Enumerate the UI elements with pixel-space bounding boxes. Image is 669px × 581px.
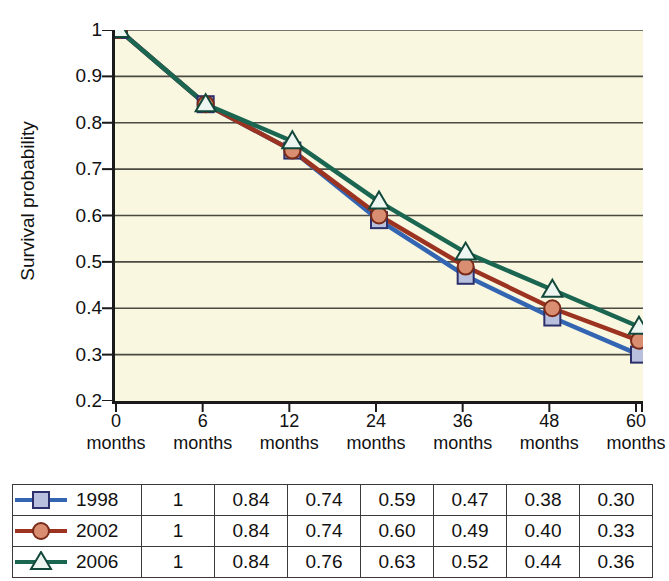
legend-marker-circle-icon (13, 520, 69, 542)
line-chart: Survival probability 10.90.80.70.60.50.4… (0, 0, 669, 470)
data-point-2006-36 months (456, 243, 476, 260)
legend-marker-triangle-icon (13, 551, 69, 573)
x-tick-label: 60months (581, 410, 669, 454)
table-cell-2002-48: 0.40 (507, 516, 580, 547)
table-cell-2002-12: 0.74 (288, 516, 361, 547)
y-tick-label: 1 (46, 20, 102, 39)
table-cell-1998-24: 0.59 (361, 485, 434, 516)
y-axis-ticks (100, 30, 114, 401)
table-row: 200210.840.740.600.490.400.33 (13, 516, 653, 547)
legend-cell-1998[interactable]: 1998 (13, 485, 142, 516)
survival-probability-figure: Survival probability 10.90.80.70.60.50.4… (0, 0, 669, 581)
data-point-2002-36 months (458, 259, 474, 275)
data-table: 199810.840.740.590.470.380.30200210.840.… (12, 484, 653, 578)
table-cell-1998-48: 0.38 (507, 485, 580, 516)
legend-year-label: 2002 (76, 520, 118, 542)
legend-marker-square-icon (13, 489, 69, 511)
table-cell-2006-48: 0.44 (507, 547, 580, 578)
table-cell-2002-60: 0.33 (580, 516, 653, 547)
y-tick-label: 0.6 (46, 206, 102, 225)
x-tick-number: 60 (581, 410, 669, 432)
table-cell-2002-24: 0.60 (361, 516, 434, 547)
y-tick-label: 0.3 (46, 345, 102, 364)
y-tick-label: 0.2 (46, 391, 102, 410)
y-tick-label: 0.4 (46, 298, 102, 317)
table-cell-2002-6: 0.84 (215, 516, 288, 547)
legend-year-label: 1998 (76, 489, 118, 511)
x-axis-ticks (112, 401, 643, 413)
y-tick-label: 0.7 (46, 159, 102, 178)
legend-year-label: 2006 (76, 551, 118, 573)
table-cell-2006-60: 0.36 (580, 547, 653, 578)
table-row: 200610.840.760.630.520.440.36 (13, 547, 653, 578)
data-table-container: 199810.840.740.590.470.380.30200210.840.… (12, 484, 646, 578)
table-cell-1998-0: 1 (142, 485, 215, 516)
table-cell-2006-0: 1 (142, 547, 215, 578)
table-cell-2006-24: 0.63 (361, 547, 434, 578)
y-tick-label: 0.9 (46, 66, 102, 85)
table-cell-1998-12: 0.74 (288, 485, 361, 516)
data-point-2002-24 months (371, 208, 387, 224)
data-point-2002-60 months (631, 333, 643, 349)
table-cell-1998-60: 0.30 (580, 485, 653, 516)
table-cell-2006-36: 0.52 (434, 547, 507, 578)
table-cell-2002-36: 0.49 (434, 516, 507, 547)
y-axis-tick-labels: 10.90.80.70.60.50.40.30.2 (46, 0, 102, 470)
plot-svg (115, 30, 643, 401)
legend-cell-2002[interactable]: 2002 (13, 516, 142, 547)
data-point-2002-48 months (544, 300, 560, 316)
table-row: 199810.840.740.590.470.380.30 (13, 485, 653, 516)
plot-area (112, 30, 643, 404)
series-line-2006 (119, 30, 639, 327)
table-cell-2002-0: 1 (142, 516, 215, 547)
table-cell-2006-12: 0.76 (288, 547, 361, 578)
legend-cell-2006[interactable]: 2006 (13, 547, 142, 578)
y-axis-title: Survival probability (17, 61, 39, 341)
table-cell-1998-6: 0.84 (215, 485, 288, 516)
x-tick-unit: months (581, 432, 669, 454)
y-tick-label: 0.8 (46, 113, 102, 132)
table-cell-2006-6: 0.84 (215, 547, 288, 578)
table-cell-1998-36: 0.47 (434, 485, 507, 516)
y-tick-label: 0.5 (46, 252, 102, 271)
